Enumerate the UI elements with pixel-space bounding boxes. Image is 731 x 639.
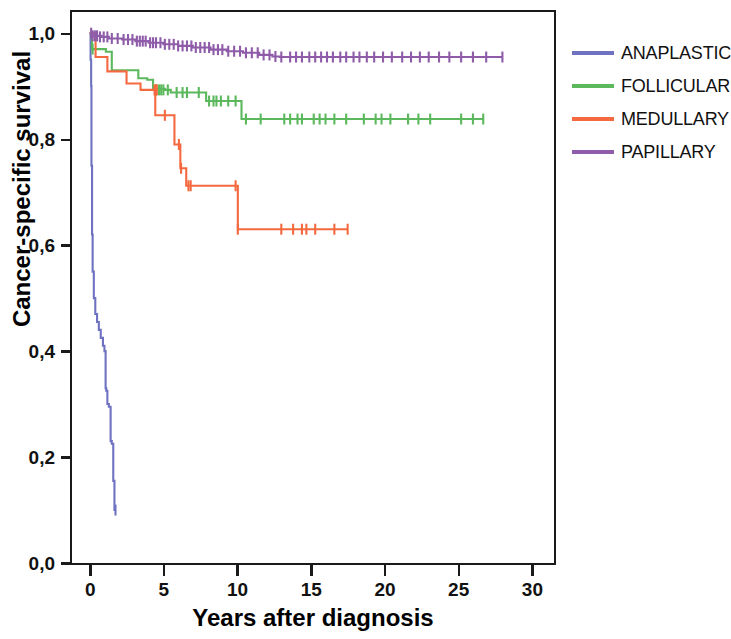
- x-tick-label: 30: [522, 579, 543, 601]
- x-axis-title: Years after diagnosis: [70, 604, 556, 632]
- x-tick-label: 10: [227, 579, 248, 601]
- legend-item-label: PAPILLARY: [621, 142, 716, 163]
- legend-color-swatch: [572, 51, 614, 55]
- legend-item-label: ANAPLASTIC: [621, 43, 731, 64]
- series-medullary: [90, 33, 348, 235]
- y-axis-tick: [61, 244, 70, 247]
- y-axis-tick: [61, 456, 70, 459]
- y-tick-label: 0,2: [0, 447, 55, 469]
- x-axis-tick: [236, 565, 239, 576]
- y-axis-tick: [61, 33, 70, 36]
- y-axis-tick: [61, 350, 70, 353]
- legend-color-swatch: [572, 84, 614, 88]
- x-tick-label: 5: [159, 579, 170, 601]
- x-axis-tick: [163, 565, 166, 576]
- legend-color-swatch: [572, 117, 614, 121]
- legend-item-papillary[interactable]: PAPILLARY: [572, 137, 727, 167]
- x-axis-tick: [310, 565, 313, 576]
- x-tick-label: 15: [301, 579, 322, 601]
- plot-area: [70, 10, 556, 565]
- y-axis-title: Cancer-specific survival: [8, 0, 36, 399]
- y-tick-label: 0,4: [0, 341, 55, 363]
- x-axis-tick: [531, 565, 534, 576]
- survival-curves-svg: [72, 12, 554, 563]
- y-axis-tick: [61, 139, 70, 142]
- x-axis-tick: [458, 565, 461, 576]
- x-tick-label: 25: [448, 579, 469, 601]
- legend-item-follicular[interactable]: FOLLICULAR: [572, 71, 727, 101]
- y-tick-label: 0,8: [0, 129, 55, 151]
- legend-color-swatch: [572, 150, 614, 154]
- x-axis-tick: [384, 565, 387, 576]
- y-tick-label: 1,0: [0, 23, 55, 45]
- y-axis-tick: [61, 562, 70, 565]
- series-papillary: [90, 28, 503, 63]
- survival-curve-line: [90, 33, 348, 229]
- x-axis-tick: [89, 565, 92, 576]
- series-anaplastic: [90, 33, 116, 515]
- legend-item-label: FOLLICULAR: [621, 76, 730, 97]
- y-tick-label: 0,6: [0, 235, 55, 257]
- survival-curve-line: [90, 33, 484, 119]
- chart-legend: ANAPLASTICFOLLICULARMEDULLARYPAPILLARY: [572, 38, 727, 170]
- survival-curve-line: [90, 33, 116, 510]
- series-follicular: [90, 33, 484, 124]
- x-tick-label: 0: [85, 579, 96, 601]
- y-tick-label: 0,0: [0, 553, 55, 575]
- legend-item-anaplastic[interactable]: ANAPLASTIC: [572, 38, 727, 68]
- x-tick-label: 20: [374, 579, 395, 601]
- legend-item-medullary[interactable]: MEDULLARY: [572, 104, 727, 134]
- legend-item-label: MEDULLARY: [621, 109, 729, 130]
